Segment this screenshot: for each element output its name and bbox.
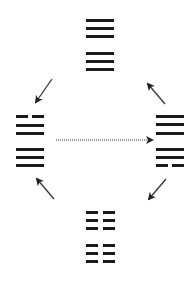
solid-line xyxy=(86,68,114,71)
arrow-bottom-to-left-icon xyxy=(37,179,54,199)
broken-line xyxy=(16,115,44,118)
broken-line xyxy=(86,211,115,214)
solid-line xyxy=(156,148,184,151)
solid-line xyxy=(156,132,184,135)
solid-line xyxy=(16,124,44,127)
arrow-right-to-bottom-icon xyxy=(149,179,166,199)
solid-line xyxy=(156,123,184,126)
broken-line xyxy=(86,260,115,263)
hexagram-left xyxy=(16,115,44,170)
solid-line xyxy=(86,27,114,30)
broken-line xyxy=(86,219,115,222)
broken-line xyxy=(86,244,115,247)
solid-line xyxy=(86,60,114,63)
hexagram-right xyxy=(156,115,184,170)
solid-line xyxy=(86,35,114,38)
broken-line xyxy=(156,164,184,167)
broken-line xyxy=(86,227,115,230)
hexagram-cycle-diagram xyxy=(0,0,196,282)
solid-line xyxy=(16,156,44,159)
hexagram-top xyxy=(86,19,114,74)
solid-line xyxy=(16,164,44,167)
solid-line xyxy=(156,156,184,159)
solid-line xyxy=(156,115,184,118)
broken-line xyxy=(86,252,115,255)
solid-line xyxy=(86,19,114,22)
solid-line xyxy=(86,52,114,55)
arrow-top-to-left-icon xyxy=(36,79,52,102)
solid-line xyxy=(16,132,44,135)
hexagram-bottom xyxy=(86,211,115,266)
solid-line xyxy=(16,148,44,151)
arrow-right-to-top-icon xyxy=(148,84,165,104)
